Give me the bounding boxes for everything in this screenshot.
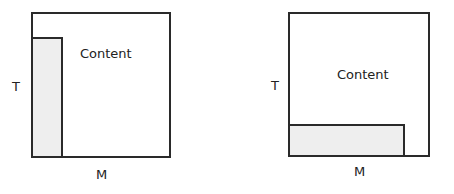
content-label: Content — [337, 68, 389, 81]
m-label: M — [96, 168, 107, 181]
content-label: Content — [80, 47, 132, 60]
menu-region — [31, 37, 63, 158]
t-label: T — [271, 79, 279, 92]
t-label: T — [12, 80, 20, 93]
m-label: M — [354, 165, 365, 178]
menu-region — [288, 124, 405, 157]
